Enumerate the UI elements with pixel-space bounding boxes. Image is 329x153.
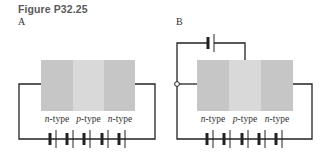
panel-b-junction-node-icon <box>175 82 180 87</box>
panel-a-label-p: p-type <box>75 114 100 124</box>
panel-a-battery-icon <box>47 130 128 148</box>
panel-a-n-region-left <box>41 60 73 111</box>
circuit-diagram: n-type p-type n-type <box>0 0 329 153</box>
panel-b-circuit: n-type p-type n-type <box>175 34 312 148</box>
panel-b-label-n-right: n-type <box>265 114 289 124</box>
panel-b-label-n-left: n-type <box>201 114 225 124</box>
panel-b-label-p: p-type <box>232 114 257 124</box>
panel-b-top-right-wire <box>214 43 245 60</box>
panel-a-label-n-left: n-type <box>45 114 69 124</box>
panel-b-p-region <box>229 60 261 111</box>
panel-a-circuit: n-type p-type n-type <box>19 60 155 148</box>
panel-a-p-region <box>73 60 104 111</box>
panel-b-top-battery-icon <box>208 34 214 52</box>
panel-b-n-region-right <box>261 60 293 111</box>
panel-b-n-region-left <box>197 60 229 111</box>
panel-b-battery-icon <box>204 130 285 148</box>
panel-a-label-n-right: n-type <box>108 114 132 124</box>
panel-a-n-region-right <box>104 60 135 111</box>
